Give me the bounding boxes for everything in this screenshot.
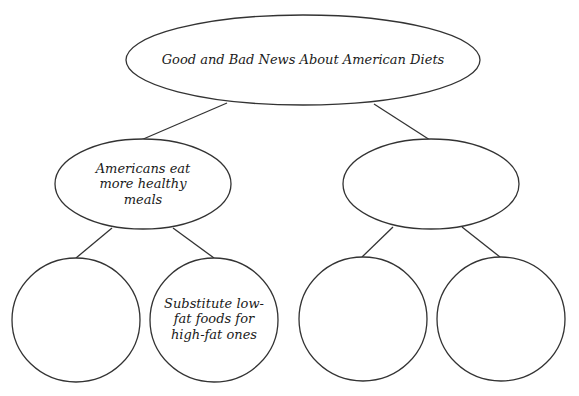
leaf-2-label-line1: Substitute low- bbox=[164, 296, 264, 312]
leaf-2: Substitute low- fat foods for high-fat o… bbox=[156, 282, 272, 356]
leaf-2-label-line2: fat foods for bbox=[174, 311, 254, 327]
connector-root-left bbox=[141, 103, 227, 140]
diagram-canvas: Good and Bad News About American Diets A… bbox=[0, 0, 579, 396]
leaf-1[interactable] bbox=[20, 270, 132, 370]
root-node: Good and Bad News About American Diets bbox=[140, 40, 466, 80]
connector-right-leaf2 bbox=[462, 227, 500, 257]
leaf-2-label-line3: high-fat ones bbox=[171, 327, 257, 343]
leaf-3[interactable] bbox=[307, 269, 419, 369]
root-node-label: Good and Bad News About American Diets bbox=[162, 52, 445, 68]
connector-left-leaf1 bbox=[76, 228, 112, 258]
right-node[interactable] bbox=[358, 150, 504, 218]
left-node: Americans eat more healthy meals bbox=[70, 150, 216, 218]
connector-root-right bbox=[374, 104, 430, 140]
left-node-label-line2: more healthy bbox=[99, 176, 186, 192]
leaf-4[interactable] bbox=[445, 269, 557, 369]
left-node-label-line3: meals bbox=[124, 192, 163, 208]
left-node-label-line1: Americans eat bbox=[96, 161, 191, 177]
connector-left-leaf2 bbox=[173, 228, 214, 258]
connector-right-leaf1 bbox=[362, 227, 393, 257]
